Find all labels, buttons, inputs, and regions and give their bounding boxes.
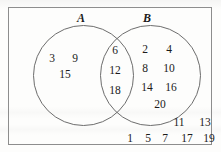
region-a-only-value: 9 [72,52,78,64]
region-intersection-value: 12 [109,64,121,76]
region-a-only-value: 3 [49,52,55,64]
set-a-label: A [77,11,85,26]
region-b-only-value: 10 [163,62,175,74]
region-outside-value: 19 [203,132,215,144]
region-b-only-value: 20 [154,98,166,110]
set-b-label: B [143,11,151,26]
region-intersection-value: 6 [112,44,118,56]
region-outside-value: 13 [199,116,211,128]
region-outside-value: 7 [162,132,168,144]
region-outside-value: 11 [173,116,184,128]
region-b-only-value: 16 [165,81,177,93]
region-outside-value: 5 [145,132,151,144]
region-b-only-value: 4 [166,43,172,55]
venn-diagram-figure: A B 3 9 15 6 12 18 2 4 8 10 14 16 20 11 … [0,0,221,152]
region-b-only-value: 14 [141,81,153,93]
region-intersection-value: 18 [109,84,121,96]
region-b-only-value: 8 [142,62,148,74]
region-b-only-value: 2 [142,43,148,55]
region-a-only-value: 15 [59,68,71,80]
region-outside-value: 17 [181,132,193,144]
region-outside-value: 1 [127,132,133,144]
